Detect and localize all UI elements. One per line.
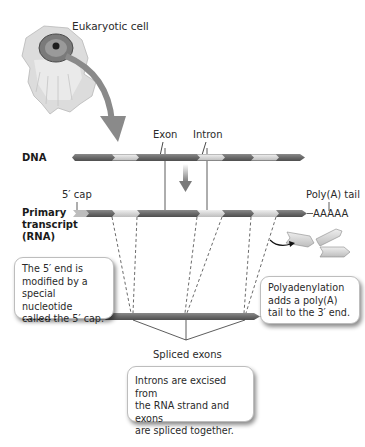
- callout-line: the RNA strand and exons: [135, 400, 246, 425]
- five-cap-label: 5′ cap: [62, 189, 92, 201]
- spliced-exons-bracket: [133, 320, 245, 340]
- transcription-arrow-icon: [179, 164, 192, 192]
- excised-introns-icon: [286, 229, 350, 257]
- callout-line: special nucleotide: [22, 288, 106, 313]
- exon-pointer: [160, 142, 163, 156]
- five-cap-segment: [73, 210, 89, 217]
- rna-intron-1: [112, 210, 140, 217]
- mrna-strand: [93, 313, 267, 320]
- rna-intron-2: [197, 210, 225, 217]
- five-cap-callout: The 5′ end is modified by a special nucl…: [14, 257, 114, 319]
- primary-transcript-strand: [73, 210, 313, 217]
- polyadenylation-callout: Polyadenylation adds a poly(A) tail to t…: [260, 276, 360, 324]
- dna-label: DNA: [22, 152, 46, 164]
- splicing-callout: Introns are excised from the RNA strand …: [127, 366, 254, 422]
- rna-intron-3: [251, 210, 279, 217]
- callout-line: modified by a: [22, 276, 106, 289]
- callout-line: called the 5′ cap.: [22, 313, 106, 326]
- splice-mapping-lines: [112, 217, 276, 313]
- exon-label: Exon: [153, 129, 177, 141]
- dna-strand: [72, 154, 305, 161]
- callout-line: Introns are excised from: [135, 375, 246, 400]
- callout-line: tail to the 3′ end.: [268, 307, 352, 320]
- dna-intron-2: [197, 155, 225, 161]
- poly-a-tail-label: Poly(A) tail: [306, 189, 360, 201]
- callout-line: adds a poly(A): [268, 295, 352, 308]
- callout-line: The 5′ end is: [22, 263, 106, 276]
- primary-transcript-label-line1: Primary: [22, 207, 66, 219]
- dna-intron-1: [112, 155, 139, 161]
- primary-poly-a-label: AAAAA: [313, 208, 348, 220]
- primary-transcript-label-line3: (RNA): [22, 231, 55, 243]
- primary-transcript-label-line2: transcript: [22, 219, 78, 231]
- intron-label: Intron: [193, 129, 223, 141]
- spliced-exons-label: Spliced exons: [153, 349, 222, 361]
- intron-pointer: [202, 142, 206, 155]
- eukaryotic-cell-label: Eukaryotic cell: [72, 20, 149, 32]
- callout-line: Polyadenylation: [268, 282, 352, 295]
- dna-intron-3: [251, 155, 279, 161]
- callout-line: are spliced together.: [135, 425, 246, 438]
